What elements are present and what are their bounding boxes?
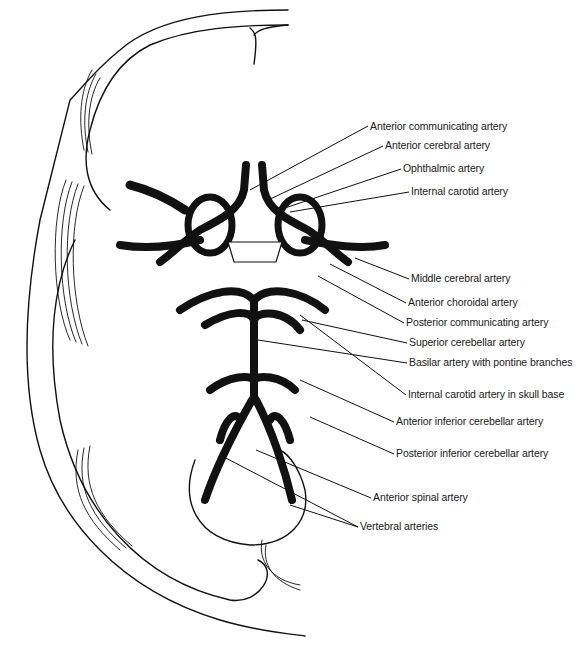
label-ophthalmic-artery: Ophthalmic artery — [403, 162, 484, 174]
label-posterior-inferior-cerebellar-artery: Posterior inferior cerebellar artery — [396, 447, 548, 459]
middle-meningeal-left — [130, 185, 185, 210]
label-superior-cerebellar-artery: Superior cerebellar artery — [409, 336, 525, 348]
label-anterior-choroidal-artery: Anterior choroidal artery — [408, 296, 518, 308]
label-vertebral-arteries: Vertebral arteries — [360, 520, 438, 532]
brain-base-arteries-figure: Anterior communicating artery Anterior c… — [0, 0, 586, 647]
arterial-circle — [120, 165, 385, 500]
label-basilar-artery: Basilar artery with pontine branches — [409, 356, 572, 368]
pituitary-stalk — [228, 242, 282, 262]
label-anterior-inferior-cerebellar-artery: Anterior inferior cerebellar artery — [396, 415, 543, 427]
leader-lines — [220, 126, 409, 527]
label-anterior-spinal-artery: Anterior spinal artery — [373, 491, 468, 503]
falx-midline — [250, 25, 288, 64]
label-anterior-communicating-artery: Anterior communicating artery — [370, 120, 507, 132]
label-posterior-communicating-artery: Posterior communicating artery — [406, 316, 548, 328]
bone-hatching — [55, 70, 300, 590]
label-anterior-cerebral-artery: Anterior cerebral artery — [385, 139, 490, 151]
label-middle-cerebral-artery: Middle cerebral artery — [411, 272, 510, 284]
label-internal-carotid-skull-base: Internal carotid artery in skull base — [408, 388, 564, 400]
label-internal-carotid-artery: Internal carotid artery — [411, 185, 508, 197]
skull-outer-contour — [27, 10, 305, 636]
